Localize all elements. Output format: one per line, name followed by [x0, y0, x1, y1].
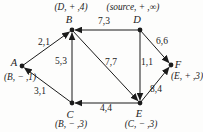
edge-label-E-F: 8,4 — [150, 84, 162, 94]
node-dot-B — [70, 28, 75, 33]
node-letter-E: E — [135, 108, 143, 119]
edge-label-D-F: 6,6 — [156, 36, 168, 46]
node-tag-C: (B, − ,3) — [55, 119, 87, 130]
flow-network-figure: 2,17,36,65,37,71,13,14,48,4A(B, − ,1)B(D… — [0, 0, 203, 132]
node-tag-D: (source, + ,∞) — [107, 2, 160, 13]
node-letter-A: A — [10, 57, 18, 68]
edge-label-C-B: 5,3 — [55, 56, 67, 66]
edge-label-D-B: 7,3 — [98, 16, 110, 26]
node-tag-E: (C, − ,3) — [125, 119, 158, 130]
edge-label-E-C: 4,4 — [100, 103, 112, 113]
graph-canvas: 2,17,36,65,37,71,13,14,48,4A(B, − ,1)B(D… — [0, 0, 203, 132]
node-dot-D — [138, 28, 143, 33]
node-letter-B: B — [66, 14, 73, 25]
edge-label-D-E: 1,1 — [141, 57, 153, 67]
node-letter-C: C — [66, 109, 74, 120]
edge-label-C-A: 3,1 — [34, 86, 46, 96]
node-dot-A — [20, 64, 25, 69]
node-tag-A: (B, − ,1) — [4, 72, 36, 83]
node-letter-D: D — [132, 14, 141, 25]
node-dot-C — [70, 101, 75, 106]
node-dot-F — [169, 63, 174, 68]
edge-label-A-B: 2,1 — [38, 37, 50, 47]
node-tag-F: (E, + ,3) — [171, 71, 203, 82]
edge-label-B-E: 7,7 — [105, 57, 117, 67]
labels-layer: 2,17,36,65,37,71,13,14,48,4A(B, − ,1)B(D… — [4, 2, 203, 130]
node-dot-E — [138, 101, 143, 106]
node-tag-B: (D, + ,4) — [54, 2, 87, 13]
node-letter-F: F — [174, 59, 182, 70]
